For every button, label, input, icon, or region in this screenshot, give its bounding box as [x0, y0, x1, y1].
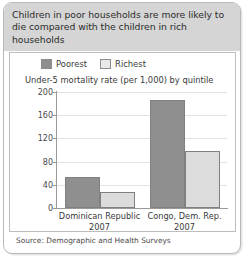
x-axis-year-label: 2007 [132, 222, 237, 233]
chart-title: Children in poor households are more lik… [12, 9, 234, 46]
legend-label-poorest: Poorest [56, 59, 87, 69]
figure-container: Children in poor households are more lik… [3, 2, 241, 254]
bar-poorest-1[interactable] [150, 100, 185, 208]
bar-richest-1[interactable] [185, 151, 220, 208]
chart-subtitle: Under-5 mortality rate (per 1,000) by qu… [25, 75, 213, 85]
y-axis-tick-label: 80 [13, 158, 53, 167]
legend-swatch-poorest-icon [41, 59, 52, 69]
x-axis-group-label: Congo, Dem. Rep.2007 [132, 211, 237, 233]
y-axis-tick-label: 200 [13, 88, 53, 97]
legend-swatch-richest-icon [100, 59, 111, 69]
y-axis-tick-label: 160 [13, 111, 53, 120]
legend-label-richest: Richest [115, 59, 146, 69]
y-axis-tick-label: 120 [13, 134, 53, 143]
source-note: Source: Demographic and Health Surveys [16, 236, 171, 245]
bar-richest-0[interactable] [100, 192, 135, 208]
gridline [57, 92, 227, 93]
y-axis-tick-label: 40 [13, 181, 53, 190]
legend-item-poorest[interactable]: Poorest [41, 59, 87, 69]
y-axis-ticks: 04080120160200 [10, 92, 53, 208]
gridline [57, 138, 227, 139]
plot-area [57, 92, 227, 208]
title-band: Children in poor households are more lik… [4, 3, 240, 51]
gridline [57, 115, 227, 116]
chart-panel: Poorest Richest Under-5 mortality rate (… [9, 52, 236, 232]
legend-item-richest[interactable]: Richest [100, 59, 146, 69]
legend: Poorest Richest [41, 59, 146, 69]
x-axis-country-label: Congo, Dem. Rep. [132, 211, 237, 222]
bar-poorest-0[interactable] [65, 177, 100, 208]
x-axis-line [56, 208, 228, 209]
